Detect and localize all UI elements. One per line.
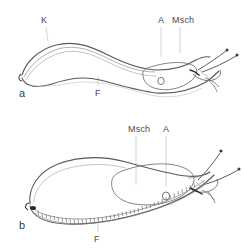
upper-tentacle-left-b: [198, 153, 220, 180]
label-b-pneumostome: A: [163, 125, 169, 134]
panel-a-drawing: [19, 27, 239, 97]
panel-letter-b: b: [19, 220, 25, 231]
lower-tentacle-left: [205, 78, 219, 87]
tail-tip-b: [25, 203, 29, 210]
dorsal-contour: [22, 43, 210, 75]
figure-container: K A Msch F Msch A F a b: [0, 0, 243, 250]
label-b-foot: F: [94, 235, 100, 244]
body-midline: [26, 51, 156, 80]
mantle-front-accent: [190, 70, 199, 75]
panel-b-leader-lines: [98, 136, 166, 232]
lower-tentacle-right-b: [208, 192, 215, 203]
tail-dark-spot-b: [30, 206, 36, 210]
panel-b-drawing: [25, 136, 240, 232]
label-b-mantle-shield: Msch: [128, 125, 150, 134]
upper-tentacle-left: [198, 51, 226, 70]
label-a-foot: F: [95, 89, 101, 98]
eye-spot-upper-left-b: [219, 149, 222, 152]
label-a-keel: K: [41, 16, 47, 25]
leader-line-K: [46, 27, 48, 41]
eye-spot-upper-left: [226, 49, 229, 52]
pneumostome-circle: [158, 77, 164, 84]
slug-anatomy-illustration: [0, 0, 243, 250]
keel-line: [24, 47, 155, 77]
foot-sole-lower-edge: [33, 184, 206, 224]
eye-spot-upper-right-b: [238, 168, 241, 171]
panel-letter-a: a: [19, 88, 25, 99]
upper-tentacle-right-b: [206, 170, 238, 184]
label-a-mantle-shield: Msch: [172, 16, 194, 25]
dorsal-inner-line-b: [34, 164, 126, 202]
mantle-shield-outline: [143, 63, 197, 90]
eye-spot-upper-right: [236, 54, 239, 57]
label-a-pneumostome: A: [158, 16, 164, 25]
